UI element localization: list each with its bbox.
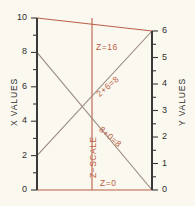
z-max-line [37,18,152,31]
y-tick-label-4: 4 [162,79,180,88]
y-tick-label-0: 0 [162,185,180,194]
annotation-z-16-label: Z=16 [96,43,118,52]
y-tick-label-5: 5 [162,53,180,62]
nomogram-chart: X VALUES Y VALUES 10 8 6 4 2 0 6 5 4 3 2… [0,0,195,206]
x-tick-label-2: 2 [9,151,27,160]
y-tick-label-3: 3 [162,106,180,115]
x-tick-label-10: 10 [9,13,27,22]
x-tick-label-0: 0 [9,185,27,194]
y-tick-label-6: 6 [162,26,180,35]
y-tick-label-2: 2 [162,132,180,141]
x-tick-label-8: 8 [9,47,27,56]
x-tick-label-4: 4 [9,116,27,125]
annotation-z-scale-label: Z−SCALE [89,136,98,178]
annotation-z-0-label: Z=0 [100,179,116,188]
y-tick-label-1: 1 [162,159,180,168]
x-tick-label-6: 6 [9,82,27,91]
